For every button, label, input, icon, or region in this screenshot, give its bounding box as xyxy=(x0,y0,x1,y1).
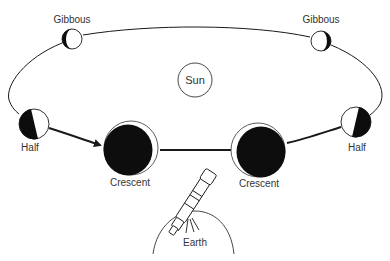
phase-crescent-left: Crescent xyxy=(104,121,159,188)
sun: Sun xyxy=(178,63,212,97)
sun-label: Sun xyxy=(185,74,205,86)
phase-gibbous-right: Gibbous xyxy=(302,14,339,51)
telescope-icon xyxy=(166,168,217,237)
phase-crescent-right: Crescent xyxy=(231,123,286,189)
phase-label: Crescent xyxy=(239,178,279,189)
phase-label: Half xyxy=(21,142,39,153)
phase-half-right: Half xyxy=(341,107,371,153)
dark-side-icon xyxy=(104,125,153,176)
earth: Earth xyxy=(153,211,234,254)
phase-label: Gibbous xyxy=(302,14,339,25)
phase-label: Crescent xyxy=(110,177,150,188)
phase-half-left: Half xyxy=(19,109,49,153)
earth-label: Earth xyxy=(183,237,207,248)
venus-phases-diagram: Sun Gibbous Gibbous Half Half Crescent C… xyxy=(0,0,390,261)
phase-label: Half xyxy=(348,142,366,153)
dark-side-icon xyxy=(237,127,286,178)
phase-label: Gibbous xyxy=(53,14,90,25)
